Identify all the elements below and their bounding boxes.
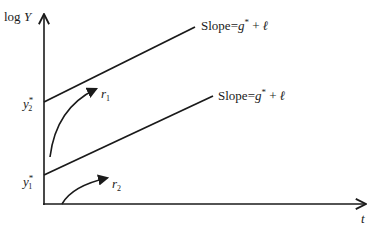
slope-eq: = (248, 88, 255, 103)
r-sub: 2 (117, 184, 121, 193)
x-axis-label-text: t (361, 211, 365, 226)
growth-path-diagram (0, 0, 374, 228)
y-axis-label-prefix: log (4, 9, 21, 24)
r2-label: r2 (112, 177, 121, 193)
slope-star: * (261, 87, 266, 97)
slope-ell: ℓ (263, 18, 268, 33)
x-axis-label: t (361, 212, 365, 225)
y-axis-label: log Y (4, 10, 31, 23)
slope-plus: + (269, 88, 276, 103)
slope-word: Slope (218, 88, 248, 103)
slope-eq: = (231, 18, 238, 33)
lower-intercept-label: y*1 (23, 174, 32, 191)
intercept-sub: 1 (28, 182, 32, 191)
slope-plus: + (252, 18, 259, 33)
r2-transition-arrow (62, 178, 107, 204)
slope-ell: ℓ (280, 88, 285, 103)
lower-slope-label: Slope=g* + ℓ (218, 88, 285, 102)
upper-growth-line (44, 27, 195, 102)
upper-intercept-label: y*2 (23, 96, 32, 113)
y-axis-label-var: Y (24, 9, 31, 24)
slope-star: * (244, 17, 249, 27)
lower-growth-line (44, 96, 213, 175)
slope-word: Slope (201, 18, 231, 33)
upper-slope-label: Slope=g* + ℓ (201, 18, 268, 32)
r1-label: r1 (101, 87, 110, 103)
r-sub: 1 (106, 94, 110, 103)
r1-transition-arrow (50, 89, 96, 157)
intercept-sub: 2 (28, 104, 32, 113)
